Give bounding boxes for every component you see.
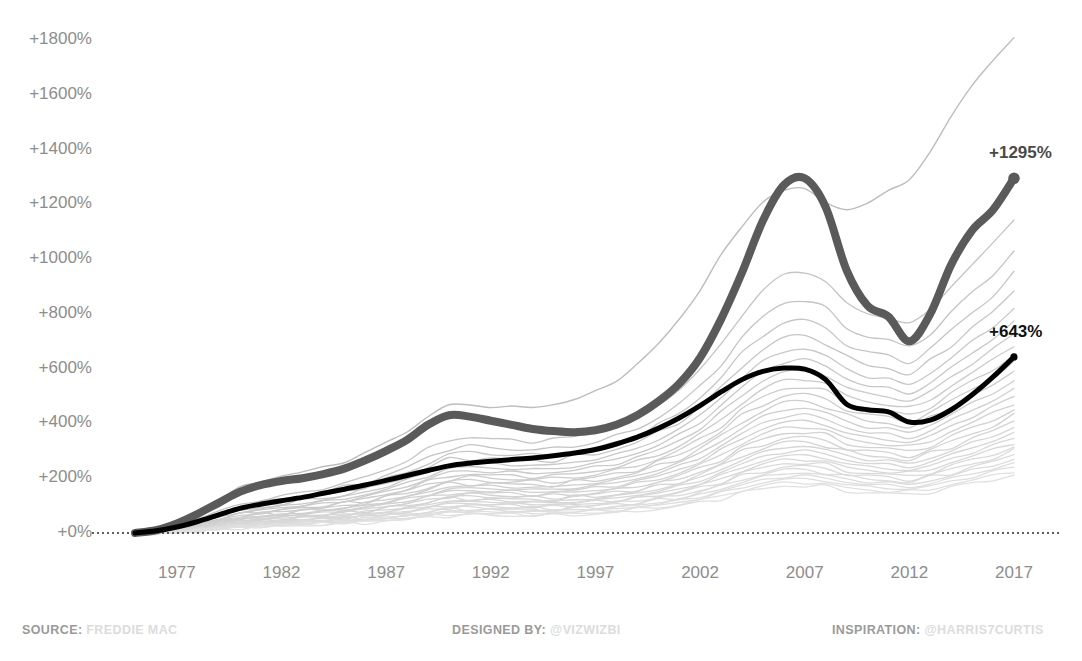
footer-source: SOURCE: FREDDIE MAC [22, 623, 178, 637]
y-axis-tick-label: +1000% [0, 248, 92, 268]
x-axis-tick-label: 2007 [770, 563, 840, 583]
y-axis-tick-label: +1800% [0, 29, 92, 49]
x-axis-tick-label: 2002 [665, 563, 735, 583]
footer-inspiration-key: INSPIRATION: [832, 623, 921, 637]
footer-source-key: SOURCE: [22, 623, 82, 637]
y-axis-tick-label: +600% [0, 358, 92, 378]
x-axis-tick-label: 2012 [874, 563, 944, 583]
footer-designed-value: @VIZWIZBI [550, 623, 621, 637]
series-line-peer [135, 309, 1014, 532]
x-axis-tick-label: 1987 [351, 563, 421, 583]
y-axis-tick-label: +1400% [0, 139, 92, 159]
footer-inspiration: INSPIRATION: @HARRIS7CURTIS [832, 623, 1044, 637]
footer: SOURCE: FREDDIE MAC DESIGNED BY: @VIZWIZ… [0, 605, 1082, 661]
endpoint-dot-highlight-black [1010, 353, 1017, 360]
y-axis-tick-label: +200% [0, 467, 92, 487]
footer-inspiration-value: @HARRIS7CURTIS [924, 623, 1043, 637]
x-axis-tick-label: 1992 [456, 563, 526, 583]
x-axis-tick-label: 1977 [142, 563, 212, 583]
line-chart-plot [0, 0, 1082, 661]
series-value-label-highlight-gray: +1295% [989, 143, 1052, 163]
series-line-peer [135, 405, 1014, 534]
x-axis-tick-label: 1982 [247, 563, 317, 583]
peer-lines-group [135, 38, 1014, 535]
y-axis-tick-label: +400% [0, 412, 92, 432]
series-value-label-highlight-black: +643% [989, 322, 1042, 342]
y-axis-tick-label: +1600% [0, 84, 92, 104]
footer-designed-key: DESIGNED BY: [452, 623, 546, 637]
footer-source-value: FREDDIE MAC [86, 623, 177, 637]
y-axis-tick-label: +800% [0, 303, 92, 323]
chart-container: +1800%+1600%+1400%+1200%+1000%+800%+600%… [0, 0, 1082, 661]
x-axis-tick-label: 1997 [560, 563, 630, 583]
endpoint-dot-highlight-gray [1008, 173, 1020, 185]
footer-designed-by: DESIGNED BY: @VIZWIZBI [452, 623, 621, 637]
x-axis-tick-label: 2017 [979, 563, 1049, 583]
y-axis-tick-label: +1200% [0, 193, 92, 213]
y-axis-tick-label: +0% [0, 522, 92, 542]
